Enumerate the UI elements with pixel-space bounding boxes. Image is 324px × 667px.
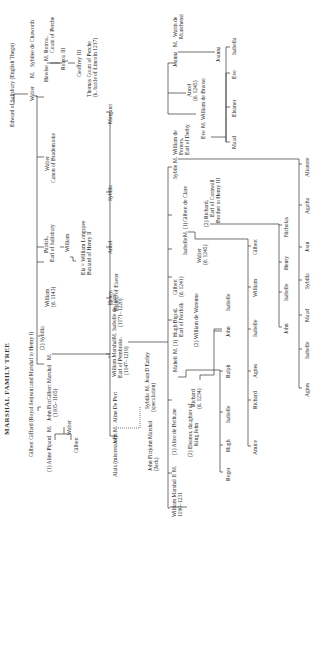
person-walter: Walter [29,86,35,101]
marriage-marker: M. [111,333,117,339]
person-gilbert-giffard: Gilbert Giffard (Royal Serjeant and Mars… [28,332,34,457]
person-william-d1143-dates: (d. 1143) [50,287,56,307]
person-gilbert-d1241-dates: (d. 1241) [178,276,184,297]
marriage-marker: M. [112,426,118,432]
person-john: John [112,433,118,444]
person-maud: Maud [231,136,237,149]
person-william-salisbury: William [64,234,70,252]
person-hugh-bigod-title: Earl of Norfolk [178,303,184,337]
person-rotrou-iii: Rotrou III [60,47,66,70]
person-nicholas: Nicholas [283,217,289,237]
person-margaret: Margaret [107,104,113,124]
person-gilbert: Gilbert [73,437,79,453]
person-henry: Henry [283,256,289,270]
person-munchensi: Munchensi [178,14,184,39]
person-isabelle-marshal: Isabelle [182,238,188,255]
person-geoffrey-iii: Geoffrey III [76,50,82,77]
family-tree-page: MARSHAL FAMILY TREE Edward of Salisbury … [0,0,324,667]
person-eve: Eve [200,130,206,139]
person-william: William [252,279,258,297]
person-eleanor-note: King John [193,423,199,446]
person-isabelle: Isabelle [283,284,289,301]
person-agatha: Agatha [304,198,310,214]
person-roger: Roger [225,467,231,481]
person-agnes: Agnes [252,364,258,378]
person-john: John [225,326,231,337]
marriage-marker: M. [200,122,206,128]
page-title: MARSHAL FAMILY TREE [3,343,11,435]
marriage-marker: M. [29,72,35,78]
person-ralph: Ralph [225,365,231,378]
person-joanna: Joanna [172,51,178,67]
tree-connector-lines [0,0,324,667]
person-maud: Maud [304,309,310,322]
person-william-de-braose: William de Braose [200,78,206,120]
person-walter-son: Walter [66,420,72,435]
person-aline-pipard: (1) Aline Pipard [46,436,52,472]
person-jack: (Jack) [153,457,159,471]
person-rotrou-title: Count of Perche [49,17,55,53]
person-sybilee-de-chaworth: Sybilee de Chaworth [29,20,35,67]
person-isabelle: Isabelle [225,294,231,311]
person-william-marshal-ii-dates: 1190–1231 [177,492,183,517]
person-isabelle: Isabelle [225,406,231,423]
person-ferrers-title: Earl of Derby [184,124,190,155]
person-sybilla: Sybilla [304,273,310,289]
person-gilbert: Gilbert [252,239,258,255]
person-patrick-title: Earl of Salisbury [49,224,55,262]
person-alianore: Alianore [304,157,310,177]
person-ancel: Ancel [107,241,113,254]
marriage-marker: M. [172,157,178,163]
marriage-marker: M. [43,55,49,61]
person-walter-canon-title: Canon of Bradenstoke [50,133,56,183]
marriage-marker: M. (1) [182,223,188,237]
person-sybilla-2nd-wife: (2) Sybilla [39,326,45,350]
marriage-marker: M. [46,354,52,360]
marriage-marker: M. (1) [172,340,178,354]
person-isabelle-de-clare-dates: (1171–1220) [117,298,123,327]
person-alice-de-bethune: (1) Alice de Bethune [171,409,177,455]
person-john-fitzgilbert-dates: (1105–1165) [52,389,58,417]
speculation-note: (speculation) [150,383,156,412]
person-walter-d1245-dates: (d. 1245) [202,244,208,265]
marriage-marker: M. [172,41,178,47]
person-amice: Amice [252,440,258,455]
person-sybile: Sybile [172,165,178,179]
person-longspee-note: Bastard of Henry II [86,231,92,275]
person-joan: Joan [304,242,310,252]
person-hugh: Hugh [225,440,231,452]
person-joanna-daughter: Joanna [215,46,221,62]
person-isabelle: Isabelle [252,320,258,337]
person-william-marshal-dates: (1147–1219) [123,346,129,375]
person-ancel-d1245-dates: (d. 1245) [192,80,198,101]
person-isabella: Isabella [231,38,237,55]
person-eleanor: Eleanor [231,100,237,117]
person-sybilla-sister: Sybilla [107,185,113,201]
person-eve: Eve [231,70,237,79]
person-aline-de-port: Aline De Port [112,392,118,423]
person-richard-d1234-dates: (d. 1234) [196,388,202,409]
person-john: John [283,323,289,334]
person-maheli: Maheli [172,356,178,372]
person-gilbert-de-clare: Gilbert de Clare [182,186,188,222]
person-richard-note: Brother to Henry III [215,178,221,223]
person-hawise: Hawise [43,65,49,82]
marriage-marker: M. [171,466,177,472]
person-thomas-note: (k. battle of Lincoln 1217) [92,38,98,97]
person-jean-dearley: Jean D'Earley [144,352,150,383]
marriage-marker: M. [46,426,52,432]
person-agnes: Agnes [304,383,310,397]
person-william-de-warenne: (2) William de Warenne [193,293,199,347]
person-richard: Richard [252,391,258,409]
person-isabelle: Isabelle [304,342,310,359]
person-edward-of-salisbury: Edward of Salisbury (English Thegn) [9,43,15,127]
